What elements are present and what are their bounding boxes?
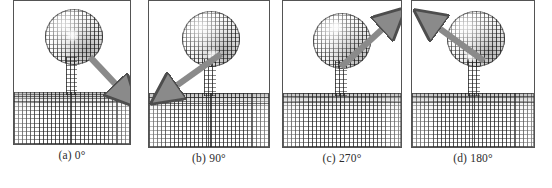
vortex-core-d: [464, 49, 478, 62]
vortex-core-b: [206, 49, 220, 62]
panel-d-wrapper: (d) 180°: [411, 0, 535, 165]
disc-element-c: [313, 13, 371, 69]
center-seam-d: [472, 93, 473, 147]
panel-a-image: [13, 0, 131, 145]
panel-c-wrapper: (c) 270°: [282, 0, 402, 165]
figure-panel-row: (a) 0°: [0, 0, 552, 188]
panel-b-image: [148, 0, 270, 148]
panel-a-caption: (a) 0°: [58, 150, 85, 162]
vortex-core-c: [330, 21, 343, 33]
panel-c-caption: (c) 270°: [322, 153, 361, 165]
panel-b-wrapper: (b) 90°: [148, 0, 270, 165]
panel-d-image: [411, 0, 535, 148]
substrate-layer-a: [14, 92, 130, 144]
panel-c-image: [282, 0, 402, 148]
panel-a-wrapper: (a) 0°: [13, 0, 131, 162]
vortex-core-a: [66, 29, 79, 42]
panel-d-caption: (d) 180°: [453, 153, 493, 165]
center-seam-c: [340, 93, 341, 147]
panel-b-caption: (b) 90°: [192, 153, 226, 165]
center-seam-a: [70, 92, 71, 144]
substrate-layer-c: [283, 93, 401, 147]
center-seam-b: [208, 93, 209, 147]
